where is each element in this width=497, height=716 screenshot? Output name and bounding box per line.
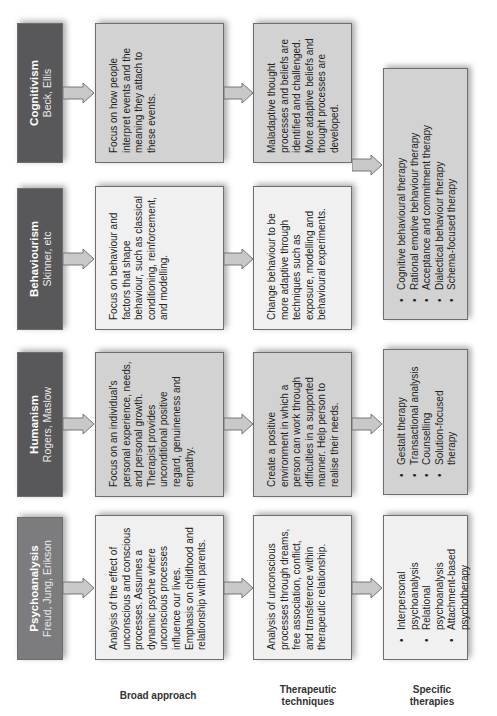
broad-approach-psychoanalysis: Analysis of the effect of unconscious an… — [95, 515, 224, 660]
therapy-item: Schema-focused therapy — [446, 77, 459, 300]
therapy-item: Attachment-based psychotherapy — [446, 524, 471, 640]
down-arrow-icon — [63, 578, 95, 598]
header-title: Cognitivism — [27, 60, 41, 126]
header-authors: Freud, Jung, Erikson — [41, 540, 54, 637]
down-arrow-icon — [352, 578, 383, 598]
therapy-item: Relational psychoanalysis — [421, 524, 446, 640]
therapy-item: Rational emotive behaviour therapy — [409, 77, 422, 300]
down-arrow-icon — [63, 249, 95, 269]
broad-approach-humanism: Focus on an individual's personal experi… — [95, 352, 224, 497]
down-arrow-icon — [352, 414, 383, 434]
broad-approach-cognitivism: Focus on how people interpret events and… — [95, 23, 224, 163]
header-humanism: Humanism Rogers, Maslow — [17, 352, 63, 497]
specific-humanism: Gestalt therapy Transactional analysis C… — [383, 349, 468, 495]
therapy-item: Counselling — [421, 358, 434, 475]
row-label-broad-approach: Broad approach — [118, 690, 198, 702]
therapy-item: Transactional analysis — [409, 358, 422, 475]
header-title: Humanism — [27, 395, 41, 454]
header-psychoanalysis: Psychoanalysis Freud, Jung, Erikson — [17, 517, 63, 660]
down-arrow-icon — [63, 414, 95, 434]
down-arrow-icon — [352, 155, 383, 175]
techniques-cognitivism: Maladaptive thought processes and belief… — [253, 23, 352, 163]
therapy-item: Interpersonal psychoanalysis — [396, 524, 421, 640]
broad-approach-behaviourism: Focus on behaviour and factors that shap… — [95, 186, 224, 330]
therapy-approaches-diagram: Broad approach Therapeutic techniques Sp… — [0, 0, 497, 716]
header-authors: Beck, Ellis — [41, 69, 54, 117]
down-arrow-icon — [63, 83, 95, 103]
therapy-item: Solution-focused therapy — [434, 358, 459, 475]
down-arrow-icon — [224, 578, 254, 598]
row-label-specific-therapies: Specific therapies — [392, 684, 472, 708]
techniques-psychoanalysis: Analysis of unconscious processes throug… — [253, 515, 352, 660]
down-arrow-icon — [224, 249, 254, 269]
techniques-behaviourism: Change behaviour to be more adaptive thr… — [253, 186, 352, 330]
header-authors: Rogers, Maslow — [41, 387, 54, 462]
header-behaviourism: Behaviourism Skinner, etc — [17, 188, 63, 330]
down-arrow-icon — [224, 83, 254, 103]
header-cognitivism: Cognitivism Beck, Ellis — [17, 23, 63, 163]
down-arrow-icon — [224, 414, 254, 434]
specific-psychoanalysis: Interpersonal psychoanalysis Relational … — [383, 515, 468, 660]
therapy-item: Dialectical behaviour therapy — [434, 77, 447, 300]
therapy-item: Cognitive behavioural therapy — [396, 77, 409, 300]
row-label-therapeutic-techniques: Therapeutic techniques — [268, 684, 348, 708]
header-title: Behaviourism — [27, 221, 41, 297]
header-authors: Skinner, etc — [41, 232, 54, 287]
therapy-item: Gestalt therapy — [396, 358, 409, 475]
therapy-item: Acceptance and commitment therapy — [421, 77, 434, 300]
specific-cognitive-behavioural: Cognitive behavioural therapy Rational e… — [383, 68, 468, 320]
techniques-humanism: Create a positive environment in which a… — [253, 352, 352, 497]
header-title: Psychoanalysis — [27, 545, 41, 631]
